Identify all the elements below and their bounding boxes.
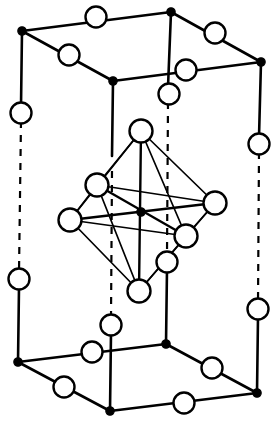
bottom-back-left [14,358,22,366]
left-vertical-lower-atom [9,269,30,290]
top-front-left [109,77,117,85]
bottom-right-edge-atom [202,358,223,379]
vertical-edge-left-upper [21,31,22,106]
bottom-back-right [253,389,261,397]
octahedron-center-atom [137,208,145,216]
top-left-edge-atom [59,45,80,66]
top-back-edge-atom [86,7,107,28]
octa-vertex-bottom [128,280,151,303]
octa-vertex-back-left [86,174,109,197]
vertical-edge-right-hidden-run [258,152,259,302]
top-front-edge-atom [176,60,197,81]
vertical-edge-right-upper [259,62,261,137]
octa-vertex-front-right [175,225,198,248]
bottom-back-center [162,340,170,348]
octa-vertex-right [204,192,227,215]
right-vertical-upper-atom [249,134,270,155]
vertical-edge-frontleft-lower [110,333,111,411]
octahedron-center-atom-group [137,208,145,216]
top-right-edge-atom [205,23,226,44]
backcenter-vertical-lower-atom [157,252,178,273]
vertical-edge-backcenter-upper [168,12,171,87]
octa-edge-bottom-to-left [70,220,139,291]
octa-vertex-top [130,120,153,143]
right-vertical-lower-atom [248,299,269,320]
vertical-edge-left-lower [18,287,19,362]
octa-edge-front-right-to-left [70,220,186,236]
vertical-edge-left-hidden-run [19,121,21,272]
vertical-edge-frontleft-upper [112,81,113,156]
top-back-right [257,58,265,66]
bottom-left-edge-atom [54,377,75,398]
top-back-center [167,8,175,16]
top-back-left [18,27,26,35]
bottom-front-left [106,407,114,415]
vertical-edge-right-lower [257,317,258,393]
octa-vertex-left [59,209,82,232]
frontleft-vertical-lower-atom [101,315,122,336]
bottom-front-edge-atom [174,393,195,414]
crystal-structure-canvas [0,0,274,421]
octa-edge-bottom-to-back-left [97,185,139,291]
vertical-edge-backcenter-hidden-run [167,102,168,254]
backcenter-vertical-upper-atom [159,84,180,105]
bottom-back-edge-atom [82,342,103,363]
crystal-structure-diagram [0,0,274,421]
vertical-edge-backcenter-lower [166,269,167,344]
octa-edge-top-to-right [141,131,215,203]
octa-edge-top-to-front-right [141,131,186,236]
left-vertical-upper-atom [11,103,32,124]
